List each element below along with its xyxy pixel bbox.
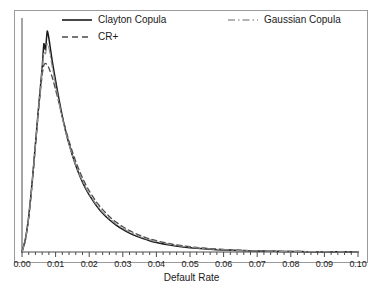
legend-swatch-cr-plus — [62, 32, 92, 42]
legend-swatch-gaussian-copula — [228, 15, 258, 25]
chart-legend: Clayton Copula CR+ Gaussian Copula — [62, 14, 352, 48]
x-tick-label: 0.00 — [5, 259, 39, 269]
x-tick-label: 0.02 — [72, 259, 106, 269]
chart-figure: 0.000.010.020.030.040.050.060.070.080.09… — [0, 0, 383, 296]
legend-swatch-clayton-copula — [62, 15, 92, 25]
legend-label-gaussian-copula: Gaussian Copula — [264, 14, 341, 25]
series-lines — [22, 31, 358, 252]
x-tick-label: 0.06 — [207, 259, 241, 269]
x-axis-title: Default Rate — [0, 272, 383, 283]
x-tick-label: 0.04 — [139, 259, 173, 269]
series-line-gaussian-copula — [22, 44, 358, 252]
legend-item-cr-plus: CR+ — [62, 31, 118, 42]
series-line-clayton-copula — [22, 31, 358, 252]
legend-item-gaussian-copula: Gaussian Copula — [228, 14, 341, 25]
legend-label-clayton-copula: Clayton Copula — [98, 14, 166, 25]
x-tick-label: 0.10 — [341, 259, 375, 269]
legend-item-clayton-copula: Clayton Copula — [62, 14, 166, 25]
legend-label-cr-plus: CR+ — [98, 31, 118, 42]
x-tick-label: 0.01 — [39, 259, 73, 269]
x-tick-label: 0.05 — [173, 259, 207, 269]
x-tick-label: 0.08 — [274, 259, 308, 269]
tick-marks — [22, 252, 358, 257]
x-tick-label: 0.03 — [106, 259, 140, 269]
axis-lines — [22, 18, 358, 252]
x-tick-label: 0.09 — [307, 259, 341, 269]
x-tick-label: 0.07 — [240, 259, 274, 269]
